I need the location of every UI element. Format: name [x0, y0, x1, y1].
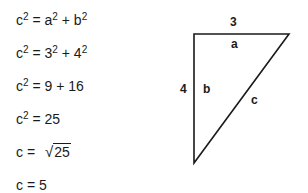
side-value-left: 4 — [180, 83, 187, 95]
triangle-shape — [194, 34, 289, 163]
side-name-left: b — [203, 83, 210, 95]
side-value-top: 3 — [230, 16, 237, 28]
side-name-top: a — [231, 38, 238, 50]
side-name-hypotenuse: c — [251, 94, 258, 106]
right-triangle-diagram — [0, 0, 308, 193]
